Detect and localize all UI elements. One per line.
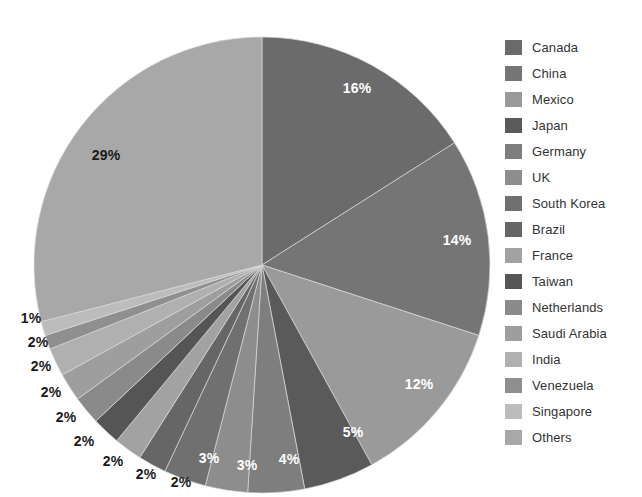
- pie-slice-label: 3%: [199, 450, 220, 466]
- legend-item-label: Singapore: [532, 404, 592, 419]
- legend-item: Others: [505, 424, 642, 450]
- legend-item: France: [505, 242, 642, 268]
- legend-color-swatch: [505, 274, 522, 289]
- legend-color-swatch: [505, 222, 522, 237]
- legend-color-swatch: [505, 430, 522, 445]
- legend-item: Canada: [505, 34, 642, 60]
- pie-slice-label: 4%: [279, 451, 300, 467]
- legend-item: Venezuela: [505, 372, 642, 398]
- pie-slice-label: 2%: [31, 358, 52, 374]
- legend-item-label: Venezuela: [532, 378, 594, 393]
- legend-item: Germany: [505, 138, 642, 164]
- legend-color-swatch: [505, 248, 522, 263]
- legend-item-label: Saudi Arabia: [532, 326, 607, 341]
- legend-item-label: Others: [532, 430, 572, 445]
- pie-slice-group: [34, 37, 490, 493]
- legend-color-swatch: [505, 40, 522, 55]
- pie-slice-label: 2%: [41, 384, 62, 400]
- legend-item: Mexico: [505, 86, 642, 112]
- chart-legend: CanadaChinaMexicoJapanGermanyUKSouth Kor…: [505, 34, 642, 450]
- pie-slice-label: 2%: [74, 433, 95, 449]
- legend-item: Brazil: [505, 216, 642, 242]
- legend-item-label: South Korea: [532, 196, 605, 211]
- legend-item-label: Canada: [532, 40, 578, 55]
- legend-item: Japan: [505, 112, 642, 138]
- pie-slice-label: 3%: [237, 457, 258, 473]
- pie-slice-label: 2%: [103, 453, 124, 469]
- legend-item: UK: [505, 164, 642, 190]
- legend-color-swatch: [505, 300, 522, 315]
- legend-item-label: France: [532, 248, 573, 263]
- legend-color-swatch: [505, 144, 522, 159]
- legend-item-label: India: [532, 352, 561, 367]
- pie-slice-label: 5%: [343, 424, 364, 440]
- legend-item: Saudi Arabia: [505, 320, 642, 346]
- legend-item: Singapore: [505, 398, 642, 424]
- pie-slice-label: 12%: [405, 376, 434, 392]
- legend-item: Netherlands: [505, 294, 642, 320]
- pie-slice-label: 2%: [136, 466, 157, 482]
- pie-slice-label: 16%: [343, 80, 372, 96]
- legend-color-swatch: [505, 378, 522, 393]
- legend-item-label: UK: [532, 170, 550, 185]
- legend-color-swatch: [505, 196, 522, 211]
- legend-item-label: Taiwan: [532, 274, 573, 289]
- legend-item-label: Brazil: [532, 222, 565, 237]
- pie-slice-label: 14%: [443, 232, 472, 248]
- pie-slice-label: 2%: [28, 334, 49, 350]
- legend-color-swatch: [505, 170, 522, 185]
- legend-color-swatch: [505, 326, 522, 341]
- legend-color-swatch: [505, 352, 522, 367]
- pie-slice-label: 2%: [171, 474, 192, 490]
- legend-item: South Korea: [505, 190, 642, 216]
- legend-color-swatch: [505, 118, 522, 133]
- pie-slice-label: 2%: [56, 409, 77, 425]
- legend-item: India: [505, 346, 642, 372]
- legend-item-label: Netherlands: [532, 300, 603, 315]
- pie-chart-figure: 16%14%12%5%4%3%3%2%2%2%2%2%2%2%2%1%29% C…: [0, 0, 642, 497]
- legend-item-label: China: [532, 66, 566, 81]
- legend-item-label: Mexico: [532, 92, 574, 107]
- pie-slice-label: 1%: [21, 310, 42, 326]
- legend-color-swatch: [505, 404, 522, 419]
- pie-slice-label: 29%: [92, 147, 121, 163]
- legend-item-label: Germany: [532, 144, 586, 159]
- legend-item: China: [505, 60, 642, 86]
- legend-color-swatch: [505, 92, 522, 107]
- legend-color-swatch: [505, 66, 522, 81]
- legend-item-label: Japan: [532, 118, 568, 133]
- legend-item: Taiwan: [505, 268, 642, 294]
